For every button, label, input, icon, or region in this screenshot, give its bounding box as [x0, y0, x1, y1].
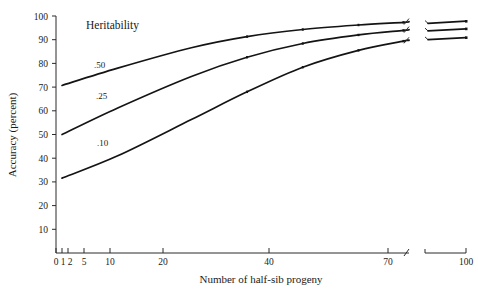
- y-tick-label-10: 10: [39, 225, 49, 235]
- y-tick-label-20: 20: [39, 201, 49, 211]
- curve-segment-010-right: [428, 38, 466, 40]
- data-point-025-n40: [357, 34, 359, 36]
- x-axis-title: Number of half-sib progeny: [199, 273, 323, 285]
- data-point-010-n20: [302, 66, 304, 68]
- y-tick-label-60: 60: [39, 106, 49, 116]
- curve-label-050: .50: [94, 60, 106, 70]
- curve-heritability-025: [62, 30, 409, 135]
- data-point-050-n100: [465, 20, 468, 23]
- data-point-025-n10: [246, 56, 248, 58]
- data-point-010-n100: [465, 36, 468, 39]
- data-point-050-n20: [302, 28, 304, 30]
- x-tick-label-2: 2: [68, 257, 73, 267]
- data-point-010-n70: [402, 40, 404, 42]
- data-point-025-n100: [465, 28, 468, 31]
- y-tick-label-80: 80: [39, 59, 49, 69]
- y-tick-label-70: 70: [39, 83, 49, 93]
- x-tick-label-70: 70: [383, 257, 393, 267]
- curve-segment-025-right: [428, 29, 466, 31]
- data-point-010-n40: [357, 49, 359, 51]
- y-tick-label-40: 40: [39, 154, 49, 164]
- curve-heritability-050: [62, 22, 409, 86]
- curve-break-010-right: [425, 37, 428, 40]
- x-tick-label-0: 0: [54, 257, 59, 267]
- data-point-025-n20: [302, 42, 304, 44]
- curve-segment-050-right: [428, 21, 466, 23]
- x-tick-label-40: 40: [264, 257, 274, 267]
- y-tick-label-90: 90: [39, 35, 49, 45]
- x-tick-label-10: 10: [105, 257, 115, 267]
- x-tick-label-100: 100: [459, 257, 474, 267]
- curve-label-010: .10: [97, 138, 109, 148]
- data-point-025-n70: [402, 29, 404, 31]
- data-point-050-n70: [402, 21, 404, 23]
- curve-break-050-right: [425, 21, 428, 24]
- curve-break-025-right: [425, 28, 428, 31]
- y-axis-title: Accuracy (percent): [6, 92, 19, 177]
- chart-figure: 100 90 80 70 60 50 40 30 20 10 0 1 2 5 1…: [0, 0, 478, 290]
- legend-title: Heritability: [86, 19, 139, 32]
- data-point-010-n10: [246, 91, 248, 93]
- x-tick-label-1: 1: [61, 257, 66, 267]
- y-tick-label-30: 30: [39, 177, 49, 187]
- x-tick-label-5: 5: [82, 257, 87, 267]
- y-tick-label-100: 100: [34, 12, 49, 22]
- data-point-050-n40: [357, 24, 359, 26]
- chart-svg: 100 90 80 70 60 50 40 30 20 10 0 1 2 5 1…: [0, 0, 478, 290]
- y-tick-label-50: 50: [39, 130, 49, 140]
- curve-label-025: .25: [96, 91, 108, 101]
- data-point-050-n10: [246, 35, 248, 37]
- x-tick-label-20: 20: [158, 257, 168, 267]
